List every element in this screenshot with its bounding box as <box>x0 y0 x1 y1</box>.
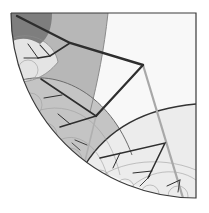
disk-regions <box>0 0 209 213</box>
hyperbolic-tree-diagram <box>0 0 209 213</box>
